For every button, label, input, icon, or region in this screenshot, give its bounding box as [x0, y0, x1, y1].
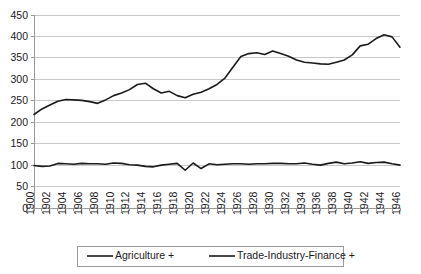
x-axis-tick-label: 1918: [167, 191, 179, 215]
x-axis-tick-label: 1940: [342, 191, 354, 215]
x-axis-tick-label: 1934: [295, 191, 307, 215]
x-axis-tick-label: 1944: [374, 191, 386, 215]
line-chart: 0501001502002503003504004501900190219041…: [0, 0, 421, 274]
x-axis-tick-label: 1902: [40, 191, 52, 215]
x-axis-tick-label: 1942: [358, 191, 370, 215]
x-axis-tick-label: 1932: [279, 191, 291, 215]
x-axis-tick-label: 1928: [247, 191, 259, 215]
x-axis-tick-label: 1916: [151, 191, 163, 215]
x-axis-tick-label: 1910: [104, 191, 116, 215]
x-axis-tick-label: 1938: [326, 191, 338, 215]
x-axis-tick-label: 1936: [310, 191, 322, 215]
legend-label-1: Agriculture +: [115, 249, 174, 261]
y-axis-tick-label: 450: [10, 9, 28, 21]
x-axis-tick-label: 1922: [199, 191, 211, 215]
y-axis-tick-label: 350: [10, 51, 28, 63]
y-axis-tick-label: 100: [10, 159, 28, 171]
y-axis-tick-label: 200: [10, 116, 28, 128]
x-axis-tick-label: 1912: [119, 191, 131, 215]
y-axis-tick-label: 150: [10, 137, 28, 149]
series-line-2: [34, 35, 400, 115]
x-axis-tick-label: 1920: [183, 191, 195, 215]
x-axis-tick-label: 1908: [88, 191, 100, 215]
y-axis-tick-label: 50: [16, 180, 28, 192]
x-axis-tick-label: 1900: [24, 191, 36, 215]
chart-container: 0501001502002503003504004501900190219041…: [0, 0, 421, 274]
x-axis-tick-label: 1906: [72, 191, 84, 215]
legend-label-2: Trade-Industry-Finance +: [237, 249, 355, 261]
y-axis-tick-label: 400: [10, 30, 28, 42]
y-axis-tick-label: 300: [10, 73, 28, 85]
x-axis-tick-label: 1926: [231, 191, 243, 215]
y-axis-tick-label: 250: [10, 94, 28, 106]
series-line-1: [34, 162, 400, 171]
x-axis-tick-label: 1930: [263, 191, 275, 215]
x-axis-tick-label: 1904: [56, 191, 68, 215]
x-axis-tick-label: 1914: [135, 191, 147, 215]
x-axis-tick-label: 1946: [390, 191, 402, 215]
x-axis-tick-label: 1924: [215, 191, 227, 215]
